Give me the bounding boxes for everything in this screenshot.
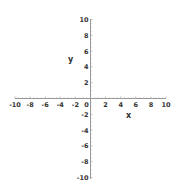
x-tick-label: -6 <box>42 101 50 109</box>
coordinate-plane: -10-8-6-4-20246810 -10-8-6-4-2246810 x y <box>0 0 180 189</box>
y-tick-label: -10 <box>77 174 89 182</box>
x-tick-label: 2 <box>103 101 108 109</box>
y-tick-label: 2 <box>84 79 89 87</box>
x-tick-label: -8 <box>26 101 34 109</box>
x-tick-label: 6 <box>134 101 139 109</box>
x-tick-label: 8 <box>149 101 154 109</box>
x-axis-label: x <box>126 111 132 120</box>
y-tick-label: -6 <box>81 142 89 150</box>
x-tick-label: -2 <box>72 101 79 109</box>
x-tick-label: -4 <box>57 101 65 109</box>
x-tick-label: 4 <box>118 101 123 109</box>
y-tick-label: 6 <box>84 48 89 56</box>
x-tick-label: -10 <box>9 101 21 109</box>
x-tick-label: 10 <box>161 101 171 109</box>
y-tick-label: -8 <box>81 158 89 166</box>
y-tick-label: 4 <box>84 63 89 71</box>
y-tick-label: -4 <box>81 127 89 135</box>
x-tick-label: 0 <box>84 101 89 109</box>
y-tick-label: 8 <box>84 32 89 40</box>
y-tick-label: 10 <box>79 16 89 24</box>
y-tick-label: -2 <box>81 111 88 119</box>
y-axis-label: y <box>68 55 74 64</box>
